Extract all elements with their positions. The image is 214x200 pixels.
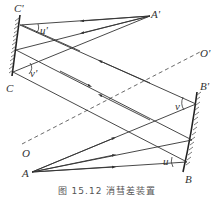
label-c: C xyxy=(6,82,14,94)
optics-diagram: C' C A' A B' B O O' u' v' v u xyxy=(0,0,214,200)
label-a-prime: A' xyxy=(150,8,161,20)
label-o: O xyxy=(22,147,30,159)
angle-u xyxy=(171,157,173,167)
mirror-cc xyxy=(9,15,20,76)
mirror-bb xyxy=(183,92,201,172)
rays-c-to-a-prime xyxy=(13,16,150,72)
label-v-prime: v' xyxy=(30,67,38,79)
label-o-prime: O' xyxy=(200,47,211,59)
label-u: u xyxy=(163,155,169,167)
label-c-prime: C' xyxy=(14,2,24,14)
label-b-prime: B' xyxy=(200,80,210,92)
figure-caption: 图 15.12 消彗差装置 xyxy=(0,184,214,197)
parallel-rays xyxy=(13,25,196,162)
label-v: v xyxy=(175,100,180,112)
label-a: A xyxy=(21,167,29,179)
label-u-prime: u' xyxy=(40,24,49,36)
